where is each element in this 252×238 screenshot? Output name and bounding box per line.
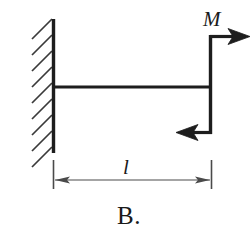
length-dimension: [54, 160, 212, 189]
moment-label: M: [203, 9, 221, 30]
wall-hatching: [32, 19, 52, 167]
figure-caption: B.: [117, 203, 141, 228]
bottom-force-arrow-left: [176, 125, 212, 141]
mechanics-beam-diagram: M l B.: [0, 0, 252, 238]
length-label: l: [123, 157, 129, 178]
